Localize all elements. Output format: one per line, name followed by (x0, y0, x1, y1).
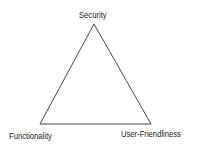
security-triangle-diagram: Security Functionality User-Friendliness (0, 0, 203, 150)
vertex-label-functionality: Functionality (9, 131, 52, 141)
vertex-label-security: Security (79, 10, 107, 20)
vertex-label-user-friendliness: User-Friendliness (121, 129, 181, 139)
triangle-shape (0, 0, 203, 150)
